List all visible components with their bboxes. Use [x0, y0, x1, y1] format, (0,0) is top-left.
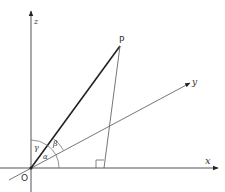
y-axis-label: y	[191, 77, 198, 87]
vector-direction-angles-diagram: O x y z P γ β α	[0, 0, 225, 192]
gamma-label: γ	[34, 143, 39, 152]
z-axis-label: z	[33, 17, 39, 26]
y-axis	[9, 83, 190, 180]
origin-point	[29, 166, 32, 169]
beta-label: β	[52, 139, 58, 148]
origin-label: O	[21, 173, 28, 183]
x-axis-label: x	[205, 155, 211, 166]
alpha-label: α	[43, 153, 48, 161]
point-p-label: P	[119, 35, 125, 45]
right-angle-marker	[96, 160, 104, 168]
